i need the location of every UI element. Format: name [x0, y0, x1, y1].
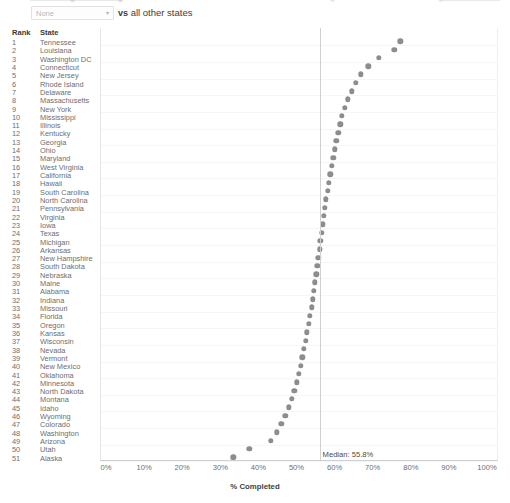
gridline: [101, 445, 497, 446]
gridline: [101, 295, 497, 296]
data-point[interactable]: [358, 72, 363, 77]
gridline: [101, 45, 497, 46]
data-point[interactable]: [247, 446, 252, 451]
data-point[interactable]: [320, 222, 325, 227]
data-point[interactable]: [283, 413, 288, 418]
data-point[interactable]: [313, 271, 318, 276]
data-point[interactable]: [301, 346, 306, 351]
data-point[interactable]: [298, 363, 303, 368]
gridline: [101, 79, 497, 80]
data-point[interactable]: [345, 97, 350, 102]
plot-frame: [100, 28, 498, 460]
data-point[interactable]: [286, 405, 291, 410]
median-reference-line: [320, 28, 321, 460]
gridline: [101, 145, 497, 146]
list-item-rank: 51: [12, 454, 20, 463]
data-point[interactable]: [332, 147, 337, 152]
data-point[interactable]: [296, 371, 301, 376]
data-point[interactable]: [323, 197, 328, 202]
gridline: [101, 95, 497, 96]
x-tick-label: 50%: [289, 463, 304, 472]
data-point[interactable]: [398, 38, 403, 43]
gridline: [101, 62, 497, 63]
data-point[interactable]: [392, 47, 397, 52]
gridline: [101, 245, 497, 246]
dot-plot-chart: [100, 28, 498, 460]
gridline: [101, 411, 497, 412]
data-point[interactable]: [328, 172, 333, 177]
data-point[interactable]: [294, 380, 299, 385]
chevron-down-icon: ▾: [106, 10, 109, 16]
gridline: [101, 428, 497, 429]
data-point[interactable]: [342, 105, 347, 110]
data-point[interactable]: [307, 313, 312, 318]
gridline: [101, 129, 497, 130]
data-point[interactable]: [336, 130, 341, 135]
x-axis-line: [100, 460, 498, 461]
control-bar: None ▾ vs all other states: [0, 5, 510, 26]
data-point[interactable]: [279, 421, 284, 426]
data-point[interactable]: [339, 113, 344, 118]
data-point[interactable]: [310, 296, 315, 301]
column-header-state: State: [40, 28, 59, 37]
x-tick-label: 80%: [403, 463, 418, 472]
gridline: [101, 345, 497, 346]
data-point[interactable]: [289, 396, 294, 401]
data-point[interactable]: [306, 321, 311, 326]
x-tick-label: 20%: [175, 463, 190, 472]
x-tick-label: 100%: [477, 463, 496, 472]
data-point[interactable]: [292, 388, 297, 393]
gridline: [101, 262, 497, 263]
data-point[interactable]: [312, 280, 317, 285]
gridline: [101, 328, 497, 329]
gridline: [101, 195, 497, 196]
gridline: [101, 312, 497, 313]
data-point[interactable]: [334, 138, 339, 143]
state-compare-select-value: None: [36, 8, 54, 19]
data-point[interactable]: [366, 63, 371, 68]
x-tick-label: 90%: [441, 463, 456, 472]
median-label: Median: 55.8%: [323, 450, 374, 459]
x-tick-label: 0%: [101, 463, 112, 472]
x-tick-label: 10%: [136, 463, 151, 472]
list-item[interactable]: 51Alaska: [0, 455, 100, 463]
data-point[interactable]: [376, 55, 381, 60]
ghost-dot: [118, 0, 123, 2]
data-point[interactable]: [311, 288, 316, 293]
data-point[interactable]: [326, 180, 331, 185]
x-axis-title: % Completed: [0, 482, 510, 491]
x-tick-label: 30%: [213, 463, 228, 472]
data-point[interactable]: [331, 155, 336, 160]
gridline: [101, 278, 497, 279]
data-point[interactable]: [300, 355, 305, 360]
data-point[interactable]: [329, 163, 334, 168]
ghost-dot: [330, 0, 335, 2]
data-point[interactable]: [304, 330, 309, 335]
data-point[interactable]: [303, 338, 308, 343]
data-point[interactable]: [353, 80, 358, 85]
gridline: [101, 162, 497, 163]
data-point[interactable]: [337, 122, 342, 127]
data-point[interactable]: [322, 205, 327, 210]
rank-state-list: Rank State 1Tennessee2Louisiana3Washingt…: [0, 28, 100, 463]
x-tick-label: 70%: [365, 463, 380, 472]
data-point[interactable]: [321, 213, 326, 218]
data-point[interactable]: [325, 188, 330, 193]
data-point[interactable]: [349, 88, 354, 93]
column-header-rank: Rank: [12, 28, 31, 37]
ghost-divider: [440, 0, 500, 1]
x-axis-ticks: 0%10%20%30%40%50%60%70%80%90%100%: [0, 463, 510, 477]
data-point[interactable]: [268, 438, 273, 443]
gridline: [101, 178, 497, 179]
gridline: [101, 112, 497, 113]
vs-text: vs: [118, 8, 128, 18]
data-point[interactable]: [309, 305, 314, 310]
state-compare-select[interactable]: None ▾: [31, 6, 114, 20]
vs-rest-text: all other states: [128, 7, 192, 18]
list-item-state: Alaska: [40, 454, 62, 463]
gridline: [101, 228, 497, 229]
x-tick-label: 60%: [327, 463, 342, 472]
data-point[interactable]: [274, 430, 279, 435]
gridline: [101, 378, 497, 379]
comparison-label: vs all other states: [118, 6, 192, 20]
